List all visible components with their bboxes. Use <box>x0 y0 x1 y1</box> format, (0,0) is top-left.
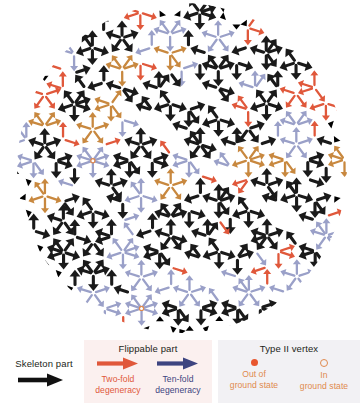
two-fold-right-arrow-icon <box>95 356 141 371</box>
legend-two-fold-line1: Two-fold <box>102 374 135 384</box>
legend-two-fold-caption: Two-fold degeneracy <box>86 374 150 395</box>
filled-circle-icon <box>251 359 258 366</box>
legend-two-fold-line2: degeneracy <box>95 385 140 395</box>
legend-two-fold-item: Two-fold degeneracy <box>86 356 150 395</box>
legend-in-caption: In ground state <box>289 370 359 391</box>
legend-out-caption: Out of ground state <box>219 369 289 390</box>
legend-ten-fold-line1: Ten-fold <box>163 374 194 384</box>
legend-ten-fold-item: Ten-fold degeneracy <box>146 356 210 395</box>
legend: Skeleton part Flippable part Two-fold de… <box>0 340 360 403</box>
legend-type2-panel: Type II vertex Out of ground state In gr… <box>218 340 360 403</box>
hollow-circle-icon <box>320 359 328 367</box>
legend-type2-title: Type II vertex <box>218 343 360 354</box>
legend-out-line1: Out of <box>242 369 266 379</box>
legend-in-line2: ground state <box>300 381 348 391</box>
legend-in-line1: In <box>320 370 327 380</box>
quasicrystal-figure: Skeleton part Flippable part Two-fold de… <box>0 0 360 403</box>
legend-out-of-ground-state-item: Out of ground state <box>219 357 289 390</box>
legend-flippable-title: Flippable part <box>84 343 212 354</box>
legend-flippable-panel: Flippable part Two-fold degeneracy Ten-f <box>84 340 212 403</box>
ten-fold-right-arrow-icon <box>155 356 201 371</box>
skeleton-right-arrow-icon <box>16 372 66 388</box>
legend-skeleton-label: Skeleton part <box>5 358 83 369</box>
legend-out-line2: ground state <box>230 380 278 390</box>
legend-ten-fold-line2: degeneracy <box>155 385 200 395</box>
legend-in-ground-state-item: In ground state <box>289 357 359 391</box>
quasicrystal-tiling <box>0 0 360 345</box>
legend-ten-fold-caption: Ten-fold degeneracy <box>146 374 210 395</box>
